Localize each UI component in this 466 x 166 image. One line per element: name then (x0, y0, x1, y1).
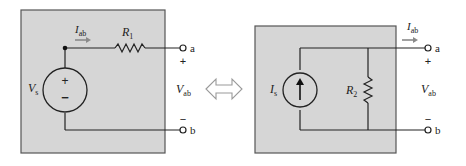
terminal-a-left (180, 45, 186, 51)
left-circuit-box (21, 10, 165, 153)
vab-left-minus: − (180, 113, 186, 125)
vs-plus-sign: + (61, 74, 68, 88)
junction-node (63, 46, 68, 51)
vab-right-minus: − (425, 113, 431, 125)
right-current-label: Iab (406, 20, 418, 35)
vab-left-plus: + (180, 55, 186, 67)
vab-right-plus: + (425, 55, 431, 67)
right-circuit: Is R2 Iab a b + Vab − (255, 20, 441, 153)
terminal-a-left-label: a (190, 42, 195, 54)
terminal-b-right-label: b (435, 124, 441, 136)
terminal-b-left (180, 127, 186, 133)
terminal-a-right-label: a (435, 42, 440, 54)
circuit-diagram: R1 Iab + − Vs a b + Vab − (0, 0, 466, 166)
vab-right-label: Vab (421, 82, 436, 98)
vs-minus-sign: − (61, 90, 69, 105)
terminal-a-right (425, 45, 431, 51)
left-circuit: R1 Iab + − Vs a b + Vab − (21, 10, 196, 153)
terminal-b-left-label: b (190, 124, 196, 136)
terminal-b-right (425, 127, 431, 133)
right-current-arrow-icon (402, 37, 418, 43)
equivalence-double-arrow-icon (206, 79, 242, 99)
vab-left-label: Vab (176, 82, 191, 98)
